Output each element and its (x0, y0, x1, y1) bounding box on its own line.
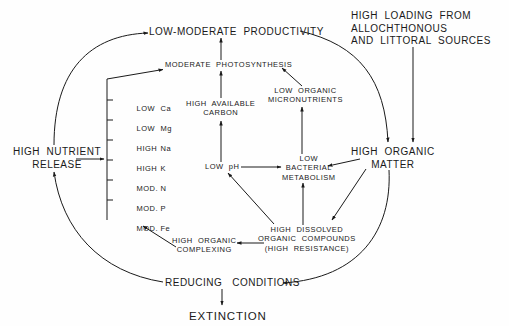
nutrient-item: MOD.Fe (121, 215, 170, 243)
node-high-nutrient-release: HIGH NUTRIENT RELEASE (13, 146, 101, 171)
nutrient-level: HIGH (137, 164, 161, 173)
node-high-available-carbon: HIGH AVAILABLE CARBON (186, 99, 255, 118)
node-low-organic-micronutrients: LOW ORGANIC MICRONUTRIENTS (268, 86, 343, 105)
nutrient-level: MOD. (137, 224, 161, 233)
node-moderate-photosynthesis: MODERATE PHOTOSYNTHESIS (165, 60, 292, 69)
nutrient-element: Mg (161, 124, 172, 133)
node-high-loading-sources: HIGH LOADING FROM ALLOCHTHONOUS AND LITT… (351, 10, 491, 48)
nutrient-element: Na (161, 144, 172, 153)
node-reducing-conditions: REDUCING CONDITIONS (165, 277, 300, 290)
nutrient-level: HIGH (137, 144, 161, 153)
nutrient-element: Fe (161, 224, 171, 233)
node-high-organic-complexing: HIGH ORGANIC COMPLEXING (172, 236, 236, 255)
nutrient-element: P (161, 204, 167, 213)
diagram-canvas: LOW-MODERATE PRODUCTIVITY MODERATE PHOTO… (0, 0, 509, 326)
node-low-ph: LOW pH (205, 162, 239, 171)
node-high-organic-matter: HIGH ORGANIC MATTER (351, 146, 435, 171)
nutrient-level: MOD. (137, 204, 161, 213)
nutrient-element: Ca (161, 104, 172, 113)
node-high-dissolved-organic-compounds: HIGH DISSOLVED ORGANIC COMPOUNDS (HIGH R… (258, 225, 356, 253)
node-low-moderate-productivity: LOW-MODERATE PRODUCTIVITY (149, 26, 324, 39)
nutrient-element: N (161, 184, 167, 193)
nutrient-level: MOD. (137, 184, 161, 193)
node-extinction: EXTINCTION (189, 309, 267, 323)
nutrient-level: LOW (137, 124, 161, 133)
nutrient-level: LOW (137, 104, 161, 113)
node-low-bacterial-metabolism: LOW BACTERIAL METABOLISM (282, 154, 336, 182)
nutrient-element: K (161, 164, 167, 173)
